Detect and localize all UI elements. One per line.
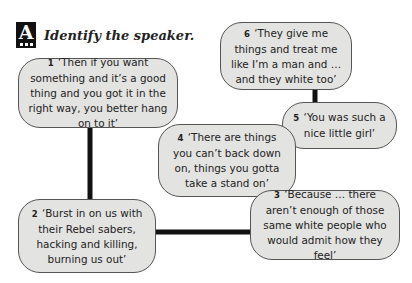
quote-number: 3 (274, 190, 280, 200)
quote-number: 6 (244, 29, 250, 39)
quote-box-1: 1 ‘Then if you want something and it’s a… (18, 58, 178, 128)
quote-box-5: 5 ‘You was such a nice little girl’ (282, 102, 397, 149)
quote-number: 4 (178, 133, 184, 143)
quote-box-2: 2 ‘Burst in on us with their Rebel saber… (18, 199, 156, 273)
quote-number: 1 (48, 58, 54, 68)
quote-number: 2 (32, 209, 38, 219)
quote-text: ‘Because … there aren’t enough of those … (263, 188, 386, 261)
quote-text: ‘Burst in on us with their Rebel sabers,… (37, 207, 143, 265)
quote-text: ‘You was such a nice little girl’ (304, 111, 386, 139)
quote-box-6: 6 ‘They give me things and treat me like… (220, 22, 352, 90)
quote-text: ‘There are things you can’t back down on… (173, 131, 281, 189)
quote-number: 5 (293, 113, 299, 123)
quote-box-3: 3 ‘Because … there aren’t enough of thos… (250, 190, 400, 260)
